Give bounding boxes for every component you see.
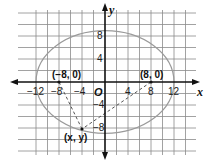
y-axis-up-arrow-icon: [102, 3, 108, 11]
x-tick: −4: [74, 86, 86, 97]
x-tick: −12: [27, 86, 44, 97]
x-tick: 8: [148, 86, 154, 97]
x-axis-label: x: [196, 85, 203, 99]
x-axis-left-arrow-icon: [10, 79, 18, 85]
focus-left-marker: [57, 80, 60, 83]
x-tick: 12: [168, 86, 180, 97]
focus-right-label: (8, 0): [140, 69, 163, 80]
focus-right-marker: [149, 80, 152, 83]
y-tick: −8: [93, 122, 105, 133]
focus-left-label: (−8, 0): [52, 69, 81, 80]
x-tick: 4: [125, 86, 131, 97]
y-tick: −4: [93, 99, 105, 110]
origin-label: O: [94, 86, 103, 98]
coordinate-plane: y x O −12 −8 −4 4 8 12 8 4 −4 −8 (−8, 0)…: [0, 0, 210, 165]
y-axis-down-arrow-icon: [102, 152, 108, 160]
point-xy-label: (x, y): [64, 132, 87, 143]
x-tick: −8: [51, 86, 63, 97]
y-axis-label: y: [107, 3, 115, 17]
y-tick: 8: [97, 30, 103, 41]
point-xy-marker: [80, 127, 83, 130]
y-tick: 4: [97, 53, 103, 64]
